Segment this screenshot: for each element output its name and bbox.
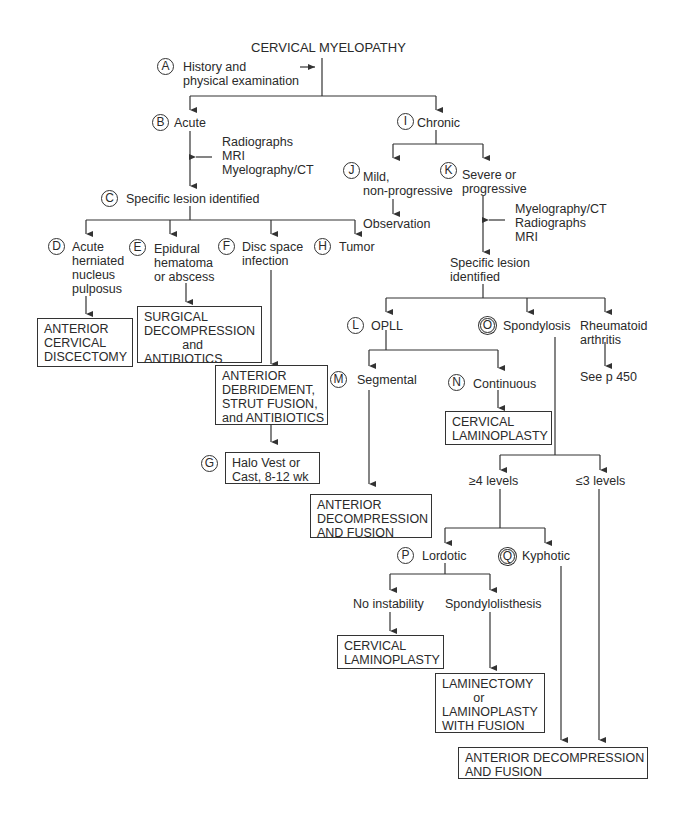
connector-lines <box>0 0 684 813</box>
node-letter-f: F <box>218 238 235 255</box>
node-d-herniated-nucleus: Acute herniated nucleus pulposus <box>72 240 124 296</box>
node-letter-q: Q <box>500 549 515 564</box>
node-letter-e: E <box>129 239 146 256</box>
node-letter-m: M <box>330 371 347 388</box>
node-letter-k: K <box>440 162 457 179</box>
chronic-imaging-tests: Myelography/CT Radiographs MRI <box>515 202 607 244</box>
branch-ge4-levels: ≥4 levels <box>469 474 518 488</box>
node-letter-p: P <box>397 547 414 564</box>
node-m-segmental: Segmental <box>357 373 417 387</box>
branch-spondylolisthesis: Spondylolisthesis <box>445 597 542 611</box>
node-j-mild: Mild, non-progressive <box>363 170 453 198</box>
treatment-anterior-debridement: ANTERIOR DEBRIDEMENT, STRUT FUSION, and … <box>215 365 328 425</box>
node-rheumatoid-arthritis: Rheumatoid arthritis <box>580 319 647 347</box>
node-letter-o: O <box>480 318 495 333</box>
node-letter-n: N <box>448 374 465 391</box>
branch-no-instability: No instability <box>353 597 424 611</box>
treatment-anterior-cervical-discectomy: ANTERIOR CERVICAL DISCECTOMY <box>37 318 133 367</box>
treatment-surgical-decompression: SURGICAL DECOMPRESSION and ANTIBIOTICS <box>137 306 262 363</box>
treatment-cervical-laminoplasty-lordotic: CERVICAL LAMINOPLASTY <box>337 635 444 669</box>
node-letter-i: I <box>397 113 414 130</box>
node-letter-c: C <box>101 190 118 207</box>
node-k-severe: Severe or progressive <box>462 168 527 196</box>
node-letter-l: L <box>347 317 364 334</box>
node-p-lordotic: Lordotic <box>422 549 466 563</box>
node-h-tumor: Tumor <box>339 240 375 254</box>
node-letter-a: A <box>157 58 174 75</box>
node-e-epidural-hematoma: Epidural hematoma or abscess <box>154 242 214 284</box>
node-c-specific-lesion: Specific lesion identified <box>126 192 259 206</box>
node-q-kyphotic: Kyphotic <box>522 549 570 563</box>
node-l-opll: OPLL <box>371 319 403 333</box>
node-letter-b: B <box>152 114 169 131</box>
node-letter-j: J <box>343 162 360 179</box>
acute-imaging-tests: Radiographs MRI Myelography/CT <box>222 135 314 177</box>
node-n-continuous: Continuous <box>473 377 536 391</box>
chronic-specific-lesion: Specific lesion identified <box>450 256 530 284</box>
node-letter-d: D <box>48 238 65 255</box>
node-letter-g: G <box>201 455 218 472</box>
node-a-history-exam: History and physical examination <box>183 60 299 88</box>
node-f-disc-space-infection: Disc space infection <box>242 240 303 268</box>
node-o-spondylosis: Spondylosis <box>503 319 570 333</box>
see-page-450-ref: See p 450 <box>580 370 637 384</box>
treatment-cervical-laminoplasty-opll: CERVICAL LAMINOPLASTY <box>445 411 552 445</box>
treatment-anterior-decompression-fusion-final: ANTERIOR DECOMPRESSION AND FUSION <box>458 747 648 779</box>
node-b-acute: Acute <box>174 116 206 130</box>
node-j-observation: Observation <box>363 217 430 231</box>
diagram-title: CERVICAL MYELOPATHY <box>251 41 406 55</box>
branch-le3-levels: ≤3 levels <box>576 474 625 488</box>
node-g-halo-vest: Halo Vest or Cast, 8-12 wk <box>225 452 320 484</box>
treatment-laminectomy-or-laminoplasty-fusion: LAMINECTOMY or LAMINOPLASTY WITH FUSION <box>435 673 545 733</box>
node-i-chronic: Chronic <box>417 116 460 130</box>
treatment-anterior-decompression-fusion-opll: ANTERIOR DECOMPRESSION AND FUSION <box>310 494 432 538</box>
node-letter-h: H <box>314 238 331 255</box>
